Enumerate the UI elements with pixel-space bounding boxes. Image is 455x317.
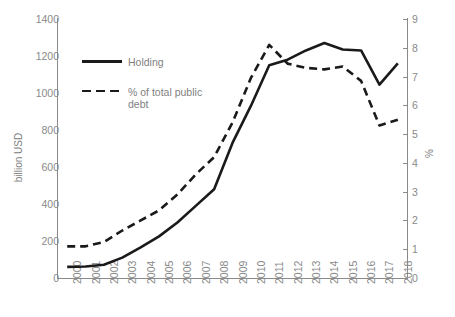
right-axis-tick-label: 0	[412, 273, 432, 283]
left-axis-tick-label: 800	[19, 125, 59, 135]
right-axis-tick-label: 4	[412, 158, 432, 168]
right-axis-line	[407, 18, 408, 279]
right-axis-tick-label: 9	[412, 14, 432, 24]
right-axis-tick-label: 2	[412, 215, 432, 225]
left-axis-tick-label: 1000	[19, 88, 59, 98]
right-axis-tick-label: 8	[412, 43, 432, 53]
right-axis-tick-label: 7	[412, 72, 432, 82]
legend-dashed-line-icon	[82, 90, 122, 93]
cropped-chart-title	[0, 0, 455, 5]
left-axis-tick-label: 400	[19, 199, 59, 209]
right-axis-tick-label: 1	[412, 244, 432, 254]
chart-legend: Holding % of total public debt	[82, 56, 232, 128]
left-axis-tick-label: 1200	[19, 51, 59, 61]
legend-entry-holding: Holding	[82, 56, 232, 69]
line-chart: billion USD % 02004006008001000120014000…	[0, 0, 455, 317]
left-axis-tick-label: 0	[19, 273, 59, 283]
legend-entry-pct-public-debt: % of total public debt	[82, 86, 232, 111]
left-axis-tick-label: 1400	[19, 14, 59, 24]
legend-label-pct-public-debt: % of total public debt	[128, 86, 220, 111]
right-axis-tick-label: 6	[412, 100, 432, 110]
left-axis-tick-label: 600	[19, 162, 59, 172]
right-axis-tick-label: 5	[412, 129, 432, 139]
left-axis-tick-label: 200	[19, 236, 59, 246]
legend-solid-line-icon	[82, 60, 122, 63]
right-axis-tick-label: 3	[412, 187, 432, 197]
legend-label-holding: Holding	[128, 56, 220, 69]
